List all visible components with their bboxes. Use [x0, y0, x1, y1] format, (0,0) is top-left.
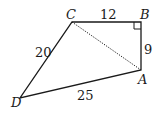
quadrilateral-outline	[20, 22, 141, 98]
point-label-c: C	[66, 7, 76, 22]
quadrilateral-diagram: C B A D 12 9 20 25	[0, 0, 161, 118]
side-label-da: 25	[77, 88, 94, 103]
side-label-cd: 20	[35, 45, 52, 60]
diagonal-ca	[72, 22, 141, 70]
right-angle-marker	[134, 22, 141, 29]
side-label-cb: 12	[100, 7, 117, 22]
point-label-b: B	[139, 7, 150, 22]
point-label-d: D	[10, 95, 22, 110]
side-label-ba: 9	[144, 42, 152, 57]
point-label-a: A	[137, 72, 147, 87]
